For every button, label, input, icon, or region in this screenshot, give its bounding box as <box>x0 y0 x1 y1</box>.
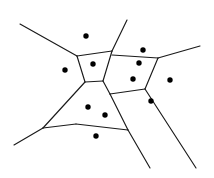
voronoi-site-point <box>90 61 95 66</box>
voronoi-canvas <box>0 0 214 178</box>
voronoi-site-point <box>136 60 141 65</box>
voronoi-diagram <box>0 0 214 178</box>
voronoi-site-point <box>93 133 98 138</box>
voronoi-site-point <box>167 77 172 82</box>
voronoi-site-point <box>83 33 88 38</box>
voronoi-site-point <box>130 76 135 81</box>
voronoi-site-point <box>62 67 67 72</box>
voronoi-site-point <box>148 98 153 103</box>
voronoi-site-point <box>102 112 107 117</box>
voronoi-site-point <box>140 47 145 52</box>
voronoi-site-point <box>85 104 90 109</box>
